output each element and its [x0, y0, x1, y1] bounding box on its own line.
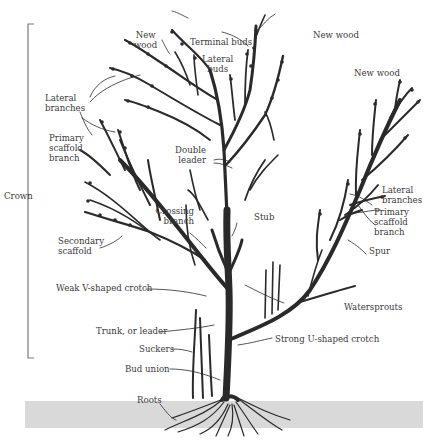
label-secondary-scaffold: Secondary scaffold: [58, 236, 104, 256]
label-lateral-buds: Lateral buds: [202, 54, 233, 74]
label-spur: Spur: [369, 246, 390, 256]
label-watersprouts: Watersprouts: [344, 302, 402, 312]
label-double-leader: Double leader: [154, 145, 206, 165]
label-stub: Stub: [254, 212, 274, 222]
label-crown: Crown: [4, 191, 33, 201]
ground-band: [25, 401, 423, 428]
tree-anatomy-diagram: New wood Terminal buds New wood Lateral …: [0, 0, 440, 442]
label-suckers: Suckers: [139, 344, 174, 354]
label-lateral-branches-left: Lateral branches: [45, 93, 85, 113]
label-strong-u-crotch: Strong U-shaped crotch: [275, 334, 379, 344]
trunk: [226, 210, 229, 398]
watersprouts: [265, 262, 280, 318]
label-bud-union: Bud union: [125, 364, 170, 374]
label-roots: Roots: [137, 395, 162, 405]
label-primary-scaffold-left: Primary scaffold branch: [49, 133, 84, 163]
label-new-wood-right: New wood: [354, 68, 400, 78]
label-new-wood-left: New wood: [134, 30, 157, 50]
label-terminal-buds: Terminal buds: [190, 37, 252, 47]
label-weak-v-crotch: Weak V-shaped crotch: [56, 283, 152, 293]
label-primary-scaffold-right: Primary scaffold branch: [374, 207, 409, 237]
label-trunk: Trunk, or leader: [96, 326, 167, 336]
label-new-wood-top: New wood: [313, 30, 359, 40]
label-crossing-branch: Crossing branch: [146, 206, 194, 226]
label-lateral-branches-right: Lateral branches: [382, 185, 422, 205]
suckers: [193, 310, 212, 398]
